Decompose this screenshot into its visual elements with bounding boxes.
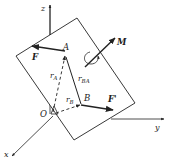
x-axis-label: x bbox=[4, 150, 9, 159]
r-a-subscript: A bbox=[53, 75, 58, 81]
force-f-label: F bbox=[31, 52, 39, 62]
point-b: B bbox=[83, 93, 90, 103]
origin-label: O bbox=[40, 109, 47, 119]
r-b-subscript: B bbox=[69, 99, 74, 105]
force-f-prime-label: F' bbox=[107, 94, 117, 104]
r-ba-subscript: BA bbox=[81, 78, 90, 84]
y-axis-label: y bbox=[154, 123, 160, 132]
point-b-label: B bbox=[83, 93, 90, 103]
y-axis: y bbox=[111, 119, 164, 132]
moment-m-label: M bbox=[116, 37, 127, 47]
x-axis: x bbox=[4, 116, 53, 159]
force-diagram: z x y O rA rB rBA A F B bbox=[0, 0, 171, 164]
z-axis-label: z bbox=[40, 4, 46, 13]
